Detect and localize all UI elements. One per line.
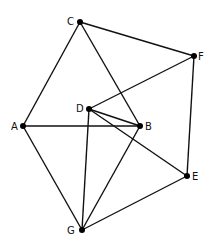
edge-F-E	[187, 56, 194, 176]
node-G	[79, 227, 85, 233]
node-A	[20, 123, 26, 129]
node-label-D: D	[76, 103, 84, 114]
graph-diagram: CFDABEG	[0, 0, 214, 240]
node-F	[191, 53, 197, 59]
node-label-F: F	[198, 51, 204, 62]
node-B	[137, 123, 143, 129]
node-D	[86, 106, 92, 112]
node-label-E: E	[192, 171, 198, 182]
node-C	[77, 19, 83, 25]
edge-D-E	[89, 109, 187, 176]
node-label-B: B	[145, 121, 152, 132]
graph-svg: CFDABEG	[0, 0, 214, 240]
node-label-G: G	[67, 225, 75, 236]
edge-C-A	[23, 22, 80, 126]
node-E	[184, 173, 190, 179]
edge-D-G	[82, 109, 89, 230]
edges-group	[23, 22, 194, 230]
edge-A-G	[23, 126, 82, 230]
node-label-C: C	[67, 16, 74, 27]
node-label-A: A	[11, 121, 18, 132]
